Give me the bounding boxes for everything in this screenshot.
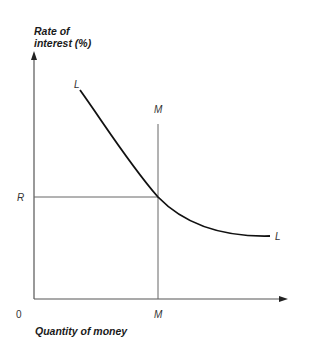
quantity-m-label: M: [154, 309, 163, 320]
supply-top-label: M: [154, 104, 163, 115]
liquidity-preference-diagram: Rate of interest (%) Quantity of money 0…: [0, 0, 309, 359]
y-axis-title-line1: Rate of: [34, 25, 71, 37]
liquidity-preference-curve: [80, 90, 270, 236]
curve-end-label: L: [275, 231, 281, 242]
origin-label: 0: [16, 309, 22, 320]
rate-r-label: R: [17, 192, 24, 203]
y-axis-title-line2: interest (%): [34, 37, 92, 49]
curve-start-label: L: [74, 79, 80, 90]
x-axis-title: Quantity of money: [35, 325, 128, 337]
y-axis-arrow-icon: [31, 51, 37, 60]
x-axis-arrow-icon: [279, 296, 288, 302]
